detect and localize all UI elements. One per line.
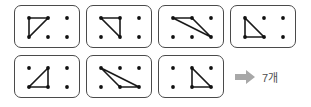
triangle-card-5 — [14, 55, 80, 98]
triangle-card-2 — [86, 5, 152, 48]
result-count-label: 7개 — [262, 69, 278, 85]
triangle-card-5-drawing — [15, 56, 81, 99]
triangle-card-7-drawing — [159, 56, 225, 99]
triangle-count-figure: 7개 — [0, 0, 311, 107]
triangle-card-4 — [230, 5, 296, 48]
card-row-bottom: 7개 — [14, 55, 278, 98]
triangle-card-3-drawing — [159, 6, 225, 49]
arrow-right-icon — [234, 69, 256, 85]
triangle-card-7 — [158, 55, 224, 98]
triangle-card-6 — [86, 55, 152, 98]
triangle-card-4-drawing — [231, 6, 297, 49]
triangle-card-1 — [14, 5, 80, 48]
triangle-card-3 — [158, 5, 224, 48]
triangle-card-6-drawing — [87, 56, 153, 99]
triangle-card-1-drawing — [15, 6, 81, 49]
card-row-top — [14, 5, 302, 48]
result-group: 7개 — [234, 55, 278, 98]
triangle-card-2-drawing — [87, 6, 153, 49]
